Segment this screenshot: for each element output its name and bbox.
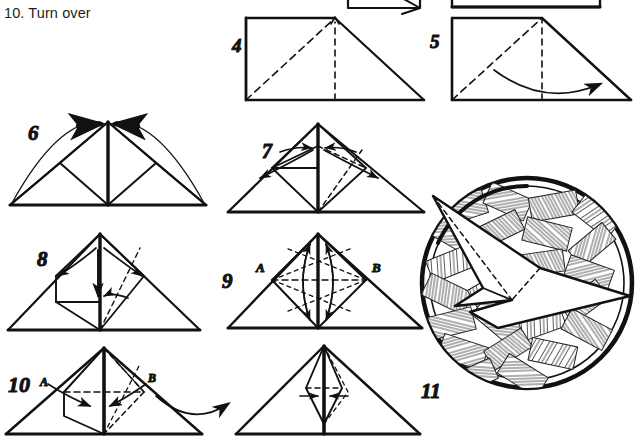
top-crop-right-figure <box>452 0 600 7</box>
step-10-label-b: B <box>147 371 156 385</box>
step-10-figure <box>6 348 228 434</box>
step-9-label-a: A <box>255 260 265 275</box>
step-10-number: 10 <box>8 372 30 397</box>
step-4-figure <box>246 17 424 100</box>
step-10-result-figure <box>236 346 420 434</box>
step-7-figure <box>228 124 424 212</box>
diagram-canvas: 4 5 <box>0 0 637 437</box>
step-5-number: 5 <box>430 31 440 52</box>
step-11-figure <box>421 178 632 397</box>
step-9-number: 9 <box>222 269 233 293</box>
origami-instruction-page: 10. Turn over <box>0 0 637 437</box>
step-9-label-b: B <box>371 260 381 275</box>
step-9-figure <box>228 234 422 328</box>
step-6-figure <box>10 122 206 205</box>
step-7-number: 7 <box>262 140 273 162</box>
top-crop-left-figure <box>348 0 420 14</box>
step-11-number: 11 <box>421 379 441 403</box>
step-8-number: 8 <box>37 247 48 271</box>
step-6-number: 6 <box>28 121 39 145</box>
step-4-number: 4 <box>231 35 242 56</box>
step-5-figure <box>452 18 631 100</box>
step-10-label-a: A <box>39 375 48 389</box>
